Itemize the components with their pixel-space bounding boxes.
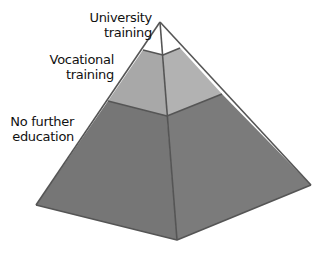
- label-no-further: No further education: [0, 114, 74, 144]
- label-university: University training: [84, 10, 152, 40]
- label-vocational-line1: Vocational: [40, 52, 114, 67]
- label-university-line1: University: [84, 10, 152, 25]
- label-vocational-line2: training: [40, 67, 114, 82]
- label-no-further-line1: No further: [0, 114, 74, 129]
- pyramid-diagram: University training Vocational training …: [0, 0, 331, 256]
- label-university-line2: training: [84, 25, 152, 40]
- label-no-further-line2: education: [0, 129, 74, 144]
- tier-no-further-right-face: [167, 94, 311, 240]
- label-vocational: Vocational training: [40, 52, 114, 82]
